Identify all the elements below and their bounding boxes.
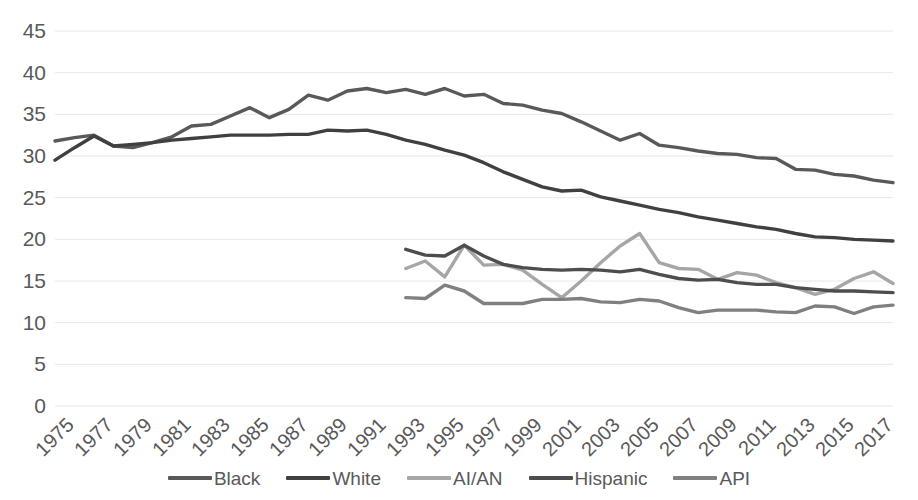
legend-item-black[interactable]: Black bbox=[168, 469, 260, 488]
legend-item-api[interactable]: API bbox=[673, 469, 750, 488]
y-axis-tick-label: 5 bbox=[0, 353, 46, 374]
legend-item-hispanic[interactable]: Hispanic bbox=[529, 469, 648, 488]
legend-label: White bbox=[332, 469, 381, 488]
line-chart: 051015202530354045 197519771979198119831… bbox=[0, 0, 918, 500]
y-axis: 051015202530354045 bbox=[0, 0, 46, 406]
legend-label: API bbox=[719, 469, 750, 488]
y-axis-tick-label: 35 bbox=[0, 103, 46, 124]
legend-swatch-icon bbox=[529, 476, 573, 480]
legend-item-ai-an[interactable]: AI/AN bbox=[407, 469, 503, 488]
legend-item-white[interactable]: White bbox=[286, 469, 381, 488]
y-axis-tick-label: 10 bbox=[0, 312, 46, 333]
legend-label: AI/AN bbox=[453, 469, 503, 488]
legend-swatch-icon bbox=[407, 476, 451, 480]
y-axis-tick-label: 25 bbox=[0, 187, 46, 208]
series-line-black bbox=[55, 89, 893, 183]
y-axis-tick-label: 20 bbox=[0, 228, 46, 249]
legend-swatch-icon bbox=[673, 476, 717, 480]
chart-legend: BlackWhiteAI/ANHispanicAPI bbox=[0, 463, 918, 493]
plot-area bbox=[55, 31, 893, 406]
legend-label: Hispanic bbox=[575, 469, 648, 488]
series-lines bbox=[55, 31, 893, 406]
legend-swatch-icon bbox=[286, 476, 330, 480]
series-line-hispanic bbox=[406, 245, 893, 293]
legend-swatch-icon bbox=[168, 476, 212, 480]
y-axis-tick-label: 30 bbox=[0, 145, 46, 166]
legend-label: Black bbox=[214, 469, 260, 488]
series-line-white bbox=[55, 130, 893, 241]
y-axis-tick-label: 15 bbox=[0, 270, 46, 291]
y-axis-tick-label: 40 bbox=[0, 62, 46, 83]
y-axis-tick-label: 45 bbox=[0, 20, 46, 41]
x-axis: 1975197719791981198319851987198919911993… bbox=[0, 406, 918, 466]
